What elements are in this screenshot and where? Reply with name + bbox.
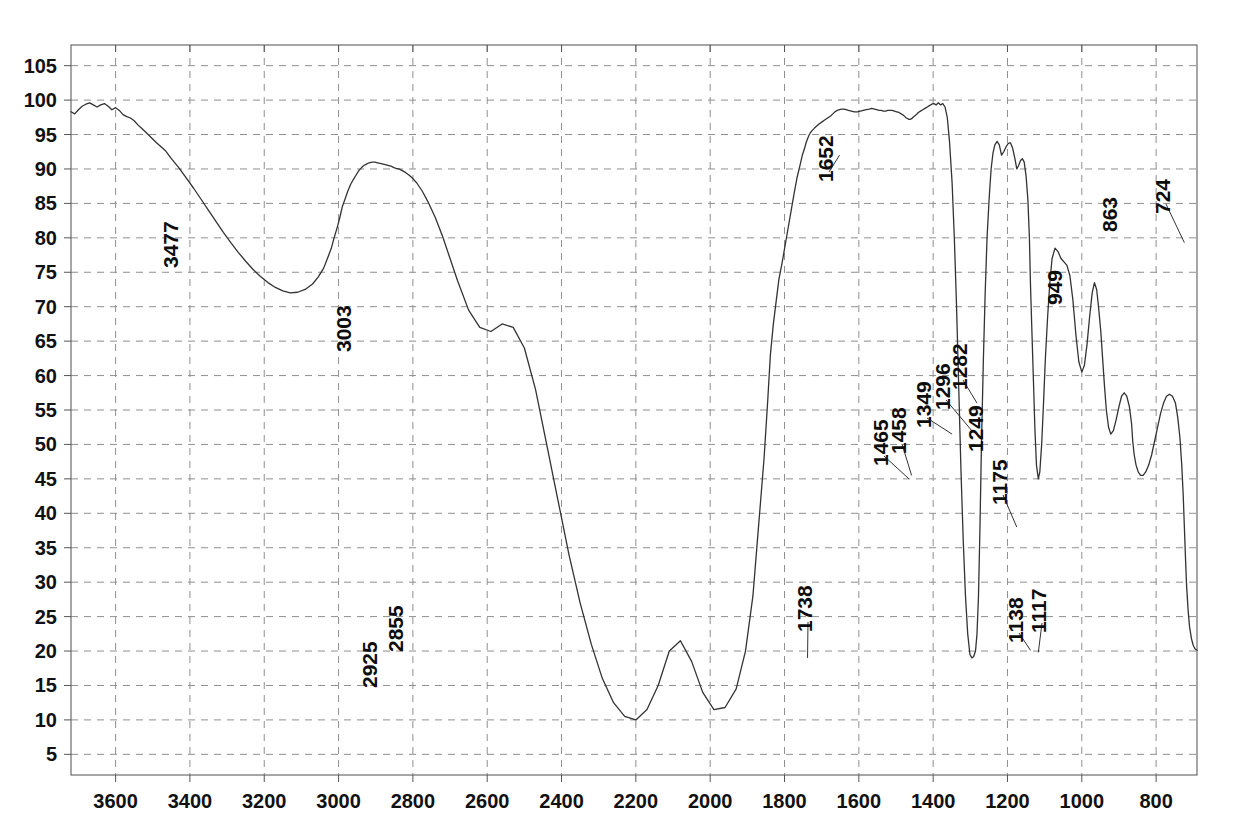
x-tick-label: 1000 bbox=[1060, 790, 1105, 812]
y-tick-label: 80 bbox=[35, 227, 57, 249]
x-tick-label: 3200 bbox=[242, 790, 287, 812]
peak-label-3477: 3477 bbox=[159, 221, 182, 268]
x-tick-label: 2000 bbox=[688, 790, 733, 812]
x-tick-label: 3600 bbox=[93, 790, 138, 812]
peak-label-1138: 1138 bbox=[1004, 597, 1027, 643]
y-tick-label: 55 bbox=[35, 399, 57, 421]
peak-label-2925: 2925 bbox=[358, 641, 381, 688]
spectrum-plot-svg: 3600340032003000280026002400220020001800… bbox=[0, 0, 1234, 831]
x-tick-label: 2800 bbox=[391, 790, 436, 812]
x-tick-label: 2400 bbox=[539, 790, 584, 812]
y-tick-label: 65 bbox=[35, 330, 57, 352]
y-tick-label: 90 bbox=[35, 158, 57, 180]
y-tick-label: 100 bbox=[24, 89, 57, 111]
x-tick-label: 1200 bbox=[985, 790, 1030, 812]
y-tick-label: 10 bbox=[35, 709, 57, 731]
x-tick-label: 3000 bbox=[316, 790, 361, 812]
y-tick-label: 50 bbox=[35, 433, 57, 455]
peak-label-1117: 1117 bbox=[1027, 589, 1050, 633]
y-tick-label: 95 bbox=[35, 124, 57, 146]
x-tick-label: 1800 bbox=[762, 790, 807, 812]
y-tick-label: 20 bbox=[35, 640, 57, 662]
y-tick-label: 25 bbox=[35, 606, 57, 628]
peak-label-3003: 3003 bbox=[332, 305, 355, 352]
peak-label-724: 724 bbox=[1151, 179, 1174, 214]
y-tick-label: 70 bbox=[35, 296, 57, 318]
x-tick-label: 2600 bbox=[465, 790, 510, 812]
peak-label-1738: 1738 bbox=[793, 585, 816, 632]
x-tick-label: 800 bbox=[1139, 790, 1172, 812]
peak-label-1175: 1175 bbox=[988, 459, 1011, 505]
peak-label-1249: 1249 bbox=[964, 405, 987, 452]
peak-label-1652: 1652 bbox=[814, 135, 837, 182]
peak-label-1282: 1282 bbox=[948, 343, 971, 390]
y-tick-label: 5 bbox=[46, 743, 57, 765]
x-axis-tick-labels: 3600340032003000280026002400220020001800… bbox=[93, 790, 1172, 812]
x-tick-label: 1400 bbox=[911, 790, 956, 812]
x-tick-label: 1600 bbox=[837, 790, 882, 812]
y-tick-label: 75 bbox=[35, 261, 57, 283]
y-tick-label: 45 bbox=[35, 468, 57, 490]
y-tick-label: 15 bbox=[35, 674, 57, 696]
grid-lines bbox=[71, 45, 1197, 775]
y-axis-tick-labels: 5101520253035404550556065707580859095100… bbox=[24, 55, 57, 766]
y-tick-label: 40 bbox=[35, 502, 57, 524]
y-tick-label: 30 bbox=[35, 571, 57, 593]
peak-label-1458: 1458 bbox=[887, 407, 910, 454]
y-tick-label: 60 bbox=[35, 365, 57, 387]
peak-label-863: 863 bbox=[1098, 197, 1121, 232]
y-tick-label: 85 bbox=[35, 192, 57, 214]
x-tick-label: 2200 bbox=[614, 790, 659, 812]
peak-label-2855: 2855 bbox=[384, 605, 407, 652]
peak-labels: 3477300329252855173816521465145813491296… bbox=[159, 135, 1174, 688]
ir-spectrum-chart: 3600340032003000280026002400220020001800… bbox=[0, 0, 1234, 831]
y-tick-label: 35 bbox=[35, 537, 57, 559]
x-tick-label: 3400 bbox=[168, 790, 213, 812]
y-tick-label: 105 bbox=[24, 55, 57, 77]
peak-label-949: 949 bbox=[1043, 270, 1066, 305]
